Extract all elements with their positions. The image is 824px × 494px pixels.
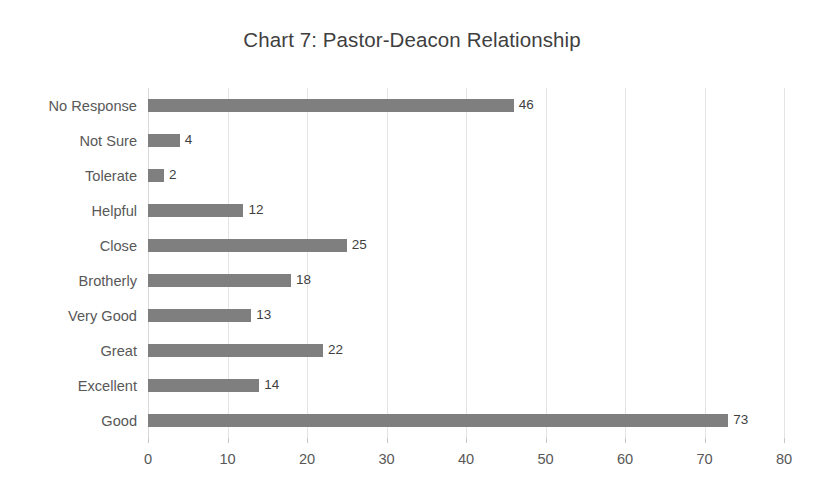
bar-value-label: 12 <box>248 202 263 217</box>
x-axis-tick-mark <box>625 438 626 443</box>
x-axis-tick-label: 0 <box>128 450 168 468</box>
x-axis-tick-label: 70 <box>685 450 725 468</box>
y-axis-category-label: Helpful <box>0 202 137 220</box>
x-axis-tick-mark <box>387 438 388 443</box>
chart-container: Chart 7: Pastor-Deacon Relationship 4642… <box>0 0 824 494</box>
x-axis-tick-mark <box>148 438 149 443</box>
y-axis-category-label: Close <box>0 237 137 255</box>
bar-value-label: 46 <box>519 97 534 112</box>
bar[interactable] <box>148 169 164 182</box>
x-axis-tick-label: 20 <box>287 450 327 468</box>
bar-row: 46 <box>148 88 784 123</box>
gridline <box>784 88 785 438</box>
bar[interactable] <box>148 344 323 357</box>
bar-row: 25 <box>148 228 784 263</box>
x-axis-tick-mark <box>546 438 547 443</box>
x-axis-tick-label: 10 <box>208 450 248 468</box>
bar[interactable] <box>148 204 243 217</box>
x-axis-tick-mark <box>228 438 229 443</box>
x-axis-tick-label: 40 <box>446 450 486 468</box>
y-axis-category-label: Very Good <box>0 307 137 325</box>
y-axis-category-label: No Response <box>0 97 137 115</box>
bar-value-label: 13 <box>256 307 271 322</box>
bar-row: 2 <box>148 158 784 193</box>
x-axis-tick-label: 50 <box>526 450 566 468</box>
x-axis-tick-mark <box>705 438 706 443</box>
bar-row: 73 <box>148 403 784 438</box>
bar-row: 14 <box>148 368 784 403</box>
bar-value-label: 73 <box>733 412 748 427</box>
bar-value-label: 18 <box>296 272 311 287</box>
bar[interactable] <box>148 134 180 147</box>
y-axis-category-label: Good <box>0 412 137 430</box>
bar[interactable] <box>148 239 347 252</box>
plot-area: 464212251813221473 <box>148 88 784 438</box>
x-axis-tick-mark <box>466 438 467 443</box>
y-axis-category-label: Excellent <box>0 377 137 395</box>
y-axis-category-label: Not Sure <box>0 132 137 150</box>
bar-value-label: 25 <box>352 237 367 252</box>
chart-title: Chart 7: Pastor-Deacon Relationship <box>0 28 824 52</box>
bar[interactable] <box>148 379 259 392</box>
y-axis-category-label: Tolerate <box>0 167 137 185</box>
x-axis-tick-mark <box>784 438 785 443</box>
bar-value-label: 14 <box>264 377 279 392</box>
bar-row: 12 <box>148 193 784 228</box>
bar-value-label: 2 <box>169 167 177 182</box>
y-axis-category-label: Great <box>0 342 137 360</box>
bar-value-label: 22 <box>328 342 343 357</box>
bar-row: 13 <box>148 298 784 333</box>
bar[interactable] <box>148 99 514 112</box>
x-axis-tick-mark <box>307 438 308 443</box>
y-axis-category-label: Brotherly <box>0 272 137 290</box>
bar[interactable] <box>148 309 251 322</box>
x-axis-tick-label: 60 <box>605 450 645 468</box>
bar-row: 4 <box>148 123 784 158</box>
bar-row: 18 <box>148 263 784 298</box>
bar[interactable] <box>148 414 728 427</box>
bar-row: 22 <box>148 333 784 368</box>
bar[interactable] <box>148 274 291 287</box>
x-axis-tick-label: 80 <box>764 450 804 468</box>
bar-value-label: 4 <box>185 132 193 147</box>
x-axis-tick-label: 30 <box>367 450 407 468</box>
